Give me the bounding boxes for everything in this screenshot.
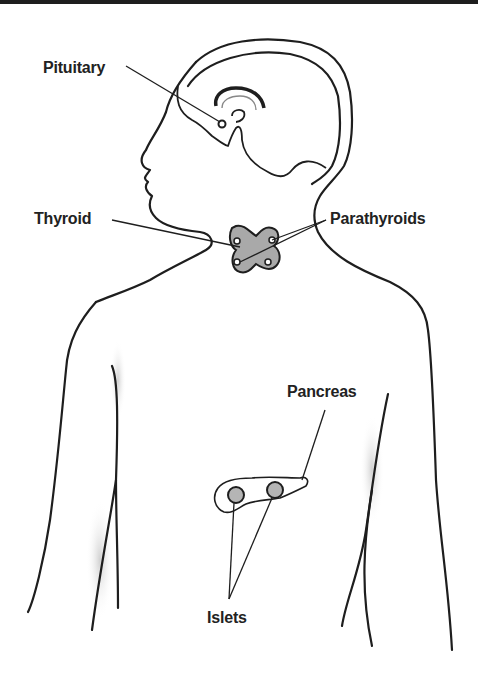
skull-inner: [188, 52, 340, 184]
islet-left: [228, 487, 244, 503]
parathyroid-gland-upper-left: [234, 238, 240, 244]
label-pancreas: Pancreas: [287, 384, 357, 400]
label-pituitary: Pituitary: [43, 60, 105, 76]
pituitary-leader: [126, 66, 220, 122]
face-profile: [96, 62, 212, 302]
brain: [177, 86, 326, 176]
endocrine-diagram: [0, 0, 478, 684]
right-arm-outer: [428, 330, 452, 650]
label-thyroid: Thyroid: [34, 211, 91, 227]
callout-lines: [112, 66, 326, 599]
islets-leader-right: [229, 498, 272, 599]
parathyroid-gland-lower-right: [265, 259, 271, 265]
pancreas-leader: [302, 410, 325, 480]
thyroid-leader: [112, 220, 240, 247]
islets-leader-left: [229, 503, 234, 599]
corpus-callosum-inner: [222, 96, 256, 110]
islet-right: [267, 482, 283, 498]
parathyroid-gland-lower-left: [234, 259, 240, 265]
left-arm-outer: [28, 302, 96, 612]
thyroid-gland: [230, 226, 280, 273]
thalamus: [232, 110, 244, 122]
pancreas-gland: [215, 477, 308, 512]
label-islets: Islets: [207, 610, 247, 626]
label-parathyroids: Parathyroids: [330, 211, 425, 227]
